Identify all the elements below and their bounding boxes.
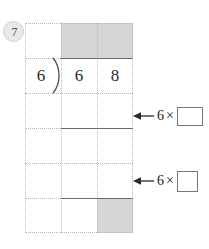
grid-hline [25,163,133,164]
hint-multiplier-2: 6 [157,173,164,188]
dividend-digit-2: 8 [97,58,133,93]
hint-row-1: 6× [133,105,203,127]
grid-vline [25,23,26,233]
hint-times-symbol-1: × [164,108,176,123]
left-arrow-icon [133,175,155,187]
problem-number-label: 7 [4,22,25,43]
division-grid [25,23,133,233]
hint-expression-1: 6× [155,108,177,124]
divisor-digit: 6 [30,58,52,93]
hint-multiplier-1: 6 [157,108,164,123]
hint-row-2: 6× [133,170,198,192]
grid-hline [25,93,133,94]
shaded-cell-bottom-right [97,198,133,233]
subtraction-rule-1 [61,128,133,129]
subtraction-rule-2 [61,198,133,199]
grid-hline [25,23,133,24]
hint-times-symbol-2: × [164,173,176,188]
left-arrow-icon [133,110,155,122]
shaded-cell-top-right [97,23,133,58]
hint-answer-box-2[interactable] [177,171,198,192]
dividend-digit-1: 6 [61,58,97,93]
hint-answer-box-1[interactable] [177,107,203,126]
worksheet-page: 7 6 6 8 6× [0,0,209,249]
hint-expression-2: 6× [155,173,177,189]
problem-number-badge: 7 [3,21,24,42]
grid-hline [25,232,133,233]
shaded-cell-top-middle [61,23,97,58]
